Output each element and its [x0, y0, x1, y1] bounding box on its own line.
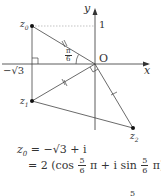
point-z1: [30, 99, 34, 103]
eq2-frac1-num: 5: [78, 156, 85, 166]
angle-den: 6: [65, 56, 72, 63]
eq2-suffix: π): [153, 159, 161, 172]
equation-line-2: = 2 (cos 56 π + i sin 56 π): [28, 156, 161, 175]
x-axis-label: x: [144, 64, 150, 77]
segment-z1-z2: [32, 101, 133, 128]
eq2-frac2-num: 5: [141, 156, 148, 166]
eq2-frac1-den: 6: [78, 166, 85, 175]
segment-O-z2: [95, 64, 133, 128]
eq1-rhs: = −√3 + i: [31, 143, 87, 156]
origin-label: O: [99, 52, 108, 65]
eq1-sub: 0: [23, 150, 27, 158]
point-z0: [30, 24, 34, 28]
tick-x-neg-sqrt3: −√3: [3, 65, 24, 76]
label-z0: z0: [20, 19, 29, 31]
z0-sub: 0: [25, 24, 29, 31]
y-axis-label: y: [84, 2, 90, 15]
angle-arc: [76, 55, 79, 65]
z1-sub: 1: [25, 101, 29, 108]
label-z2: z2: [130, 131, 139, 143]
angle-label: π6: [64, 48, 73, 63]
eq2-prefix: = 2 (cos: [28, 159, 74, 172]
tick-y-1: 1: [99, 19, 105, 30]
label-z1: z1: [20, 96, 29, 108]
y-axis-arrow-icon: [93, 8, 98, 15]
eq2-mid: π + i sin: [90, 159, 137, 172]
equation-line-3-partial: 5: [130, 189, 135, 196]
z2-sub: 2: [135, 136, 139, 143]
eq2-frac2-den: 6: [141, 166, 148, 175]
right-angle-mark-1: [32, 58, 38, 64]
point-z2: [131, 126, 135, 130]
